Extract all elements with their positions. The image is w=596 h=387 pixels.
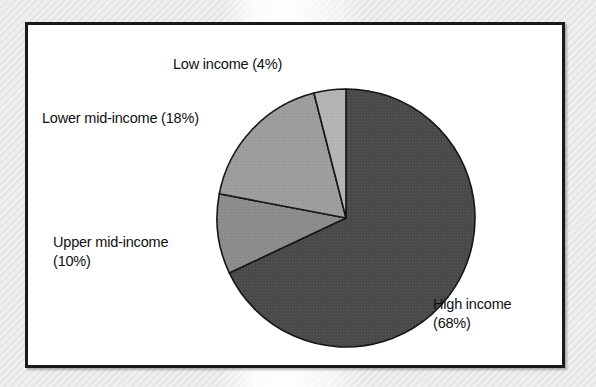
- slice-label-low-income-text: Low income (4%): [173, 55, 282, 74]
- slice-label-low-income: Low income (4%): [173, 55, 282, 74]
- slice-label-upper-mid-income: Upper mid-income (10%): [53, 233, 168, 271]
- slice-label-lower-mid-income-text: Lower mid-income (18%): [42, 109, 199, 128]
- slice-label-upper-mid-income-line1: Upper mid-income: [53, 233, 168, 252]
- scanned-page-background: Low income (4%) Lower mid-income (18%) U…: [0, 0, 596, 387]
- chart-frame: Low income (4%) Lower mid-income (18%) U…: [25, 22, 565, 368]
- pie-chart-plot-area: Low income (4%) Lower mid-income (18%) U…: [28, 25, 562, 365]
- slice-label-upper-mid-income-line2: (10%): [53, 252, 168, 271]
- slice-label-lower-mid-income: Lower mid-income (18%): [42, 109, 199, 128]
- slice-label-high-income-line2: (68%): [433, 314, 511, 333]
- slice-label-high-income: High income (68%): [433, 295, 511, 333]
- slice-label-high-income-line1: High income: [433, 295, 511, 314]
